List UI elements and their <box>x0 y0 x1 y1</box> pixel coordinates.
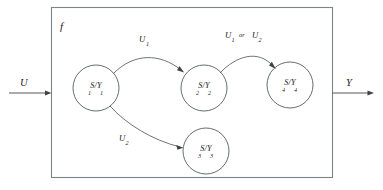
edge-label-1-to-2-sub: 1 <box>146 40 149 47</box>
state-node-2-sub-right: 2 <box>208 89 211 96</box>
state-transition-diagram: f U Y U 1 U 1 or U 2 U 2 S/Y 1 1 S/Y <box>0 0 383 190</box>
edge-arrowhead-1-to-2-icon <box>177 66 184 73</box>
edge-path-1-to-2 <box>114 58 181 73</box>
edge-label-2-to-4-sub2: 2 <box>259 36 262 43</box>
output-label-Y: Y <box>346 77 353 88</box>
edge-label-2-to-4-or: or <box>239 31 245 38</box>
system-block-boundary <box>52 8 333 178</box>
output-arrow-head-icon <box>368 91 375 96</box>
state-node-1-sub-right: 1 <box>100 89 103 96</box>
edge-path-2-to-4 <box>220 56 273 73</box>
state-node-4-sub-left: 4 <box>282 86 285 93</box>
edge-label-2-to-4-sub: 1 <box>232 36 235 43</box>
state-node-1-sub-left: 1 <box>88 89 91 96</box>
input-arrow-head-icon <box>45 91 52 96</box>
state-node-3-sub-right: 3 <box>209 152 213 159</box>
block-label-f: f <box>60 20 65 32</box>
state-node-4-sub-right: 4 <box>294 86 297 93</box>
edge-arrowhead-1-to-3-icon <box>176 145 183 150</box>
input-label-U: U <box>20 77 29 88</box>
edge-label-1-to-3-sub: 2 <box>126 139 129 146</box>
state-node-3-sub-left: 3 <box>197 152 201 159</box>
state-node-2-sub-left: 2 <box>196 89 199 96</box>
edge-label-1-to-2-main: U <box>139 34 146 44</box>
diagram-canvas: f U Y U 1 U 1 or U 2 U 2 S/Y 1 1 S/Y <box>0 0 383 190</box>
